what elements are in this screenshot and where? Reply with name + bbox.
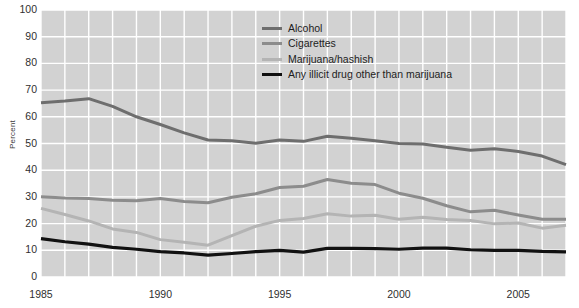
y-tick-label: 0 — [9, 271, 37, 282]
x-tick-label: 1985 — [29, 288, 52, 300]
x-tick-label: 1990 — [149, 288, 172, 300]
legend-item: Alcohol — [262, 22, 452, 34]
y-axis-ticks: 1009080706050403020100 — [0, 0, 37, 308]
legend-label: Marijuana/hashish — [288, 54, 373, 65]
x-tick-label: 2000 — [387, 288, 410, 300]
y-tick-label: 100 — [9, 4, 37, 15]
y-tick-label: 40 — [9, 164, 37, 175]
x-tick-label: 1995 — [268, 288, 291, 300]
legend-label: Alcohol — [288, 23, 322, 34]
legend-item: Cigarettes — [262, 38, 452, 50]
legend-item: Marijuana/hashish — [262, 53, 452, 65]
legend-swatch-icon — [262, 58, 282, 61]
x-tick-label: 2005 — [507, 288, 530, 300]
y-axis-title: Percent — [8, 105, 17, 165]
y-tick-label: 90 — [9, 31, 37, 42]
legend-item: Any illicit drug other than marijuana — [262, 69, 452, 81]
y-tick-label: 70 — [9, 84, 37, 95]
y-tick-label: 80 — [9, 57, 37, 68]
chart-legend: AlcoholCigarettesMarijuana/hashishAny il… — [262, 22, 452, 81]
y-tick-label: 30 — [9, 191, 37, 202]
legend-swatch-icon — [262, 42, 282, 45]
legend-label: Cigarettes — [288, 38, 336, 49]
legend-swatch-icon — [262, 27, 282, 30]
y-tick-label: 20 — [9, 218, 37, 229]
y-tick-label: 10 — [9, 244, 37, 255]
legend-swatch-icon — [262, 73, 282, 76]
legend-label: Any illicit drug other than marijuana — [288, 69, 452, 80]
line-chart: 1009080706050403020100 Percent 198519901… — [0, 0, 579, 308]
